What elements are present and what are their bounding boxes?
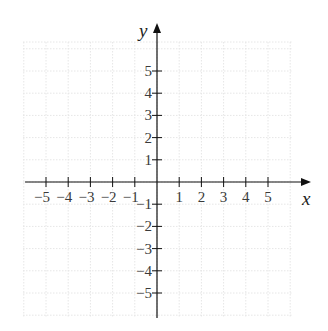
y-tick-label: −2 [136, 218, 152, 234]
y-tick-label: −1 [136, 196, 152, 212]
x-tick-label: −3 [78, 189, 94, 205]
y-tick-label: −4 [136, 263, 152, 279]
y-tick-label: 3 [145, 107, 153, 123]
x-tick-label: 2 [198, 189, 206, 205]
x-tick-label: −2 [101, 189, 117, 205]
y-tick-label: 4 [145, 85, 153, 101]
y-axis-arrow-icon [153, 23, 161, 33]
y-tick-label: −3 [136, 241, 152, 257]
x-tick-label: 5 [264, 189, 272, 205]
y-tick-label: 2 [145, 130, 153, 146]
y-tick-label: −5 [136, 285, 152, 301]
x-tick-label: 1 [175, 189, 183, 205]
x-tick-label: 3 [220, 189, 228, 205]
y-axis-label: y [137, 20, 148, 41]
y-tick-label: 1 [145, 152, 153, 168]
x-tick-label: 4 [242, 189, 250, 205]
x-tick-label: −5 [34, 189, 50, 205]
coordinate-plane: −5−4−3−2−112345−5−4−3−2−112345 x y [0, 0, 328, 331]
y-tick-label: 5 [145, 63, 153, 79]
x-tick-label: −4 [56, 189, 72, 205]
x-axis-label: x [301, 188, 311, 209]
x-axis-arrow-icon [301, 178, 311, 186]
